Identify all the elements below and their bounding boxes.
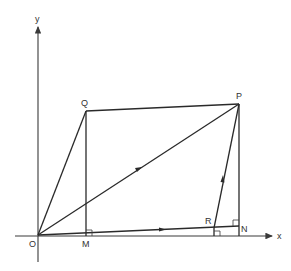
- point-label-R: R: [205, 216, 212, 226]
- segment-ON: [38, 226, 239, 235]
- point-label-O: O: [29, 239, 36, 249]
- point-label-P: P: [236, 91, 242, 101]
- point-label-M: M: [82, 239, 90, 249]
- vector-diagram: y x O Q P M N R: [0, 0, 291, 271]
- point-label-N: N: [241, 224, 248, 234]
- segment-OQ: [38, 111, 86, 235]
- arrow-icon-ON: [159, 228, 166, 232]
- right-angle-R-icon: [214, 231, 220, 236]
- segment-QP: [86, 104, 239, 111]
- diagram-svg: y x O Q P M N R: [0, 0, 291, 271]
- point-label-Q: Q: [81, 98, 88, 108]
- segment-RP: [214, 104, 239, 228]
- x-axis-label: x: [277, 231, 282, 241]
- right-angle-N-icon: [233, 220, 239, 226]
- y-axis-label: y: [35, 14, 40, 24]
